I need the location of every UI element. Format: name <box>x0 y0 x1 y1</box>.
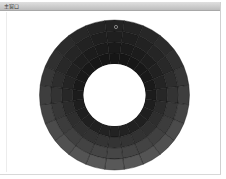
wheel-segment[interactable] <box>109 126 120 137</box>
wheel-segment[interactable] <box>73 90 84 101</box>
wheel-segment[interactable] <box>109 53 120 64</box>
wheel-segment[interactable] <box>145 90 156 101</box>
wheel-segment[interactable] <box>40 85 52 105</box>
wheel-segment[interactable] <box>51 87 62 104</box>
wheel-segment[interactable] <box>108 137 122 148</box>
wheel-segment[interactable] <box>105 158 125 170</box>
wheel-segment[interactable] <box>156 88 167 102</box>
wheel-segment[interactable] <box>106 31 123 42</box>
wheel-segment[interactable] <box>108 42 122 53</box>
wheel-segment[interactable] <box>62 88 73 102</box>
wheel-segment[interactable] <box>167 87 178 104</box>
color-wheel[interactable] <box>0 0 226 179</box>
wheel-segment[interactable] <box>178 85 190 105</box>
wheel-segment[interactable] <box>106 148 123 159</box>
wheel-center-hole <box>84 64 146 126</box>
